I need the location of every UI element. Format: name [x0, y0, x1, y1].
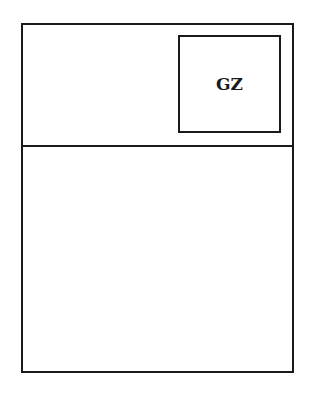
gz-label: GZ — [216, 74, 243, 94]
gz-box: GZ — [178, 35, 281, 133]
horizontal-divider — [21, 145, 294, 147]
